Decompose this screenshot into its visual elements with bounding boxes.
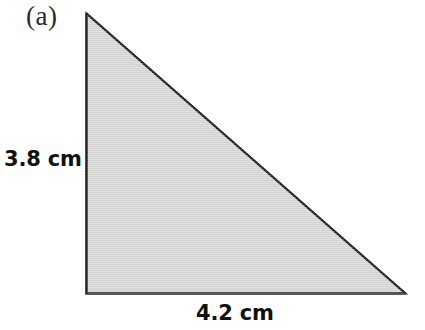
figure-root: (a) 3.8 cm 4.2 cm bbox=[0, 0, 425, 330]
height-dimension-label: 3.8 cm bbox=[4, 146, 82, 172]
part-label: (a) bbox=[26, 1, 57, 31]
base-dimension-label: 4.2 cm bbox=[196, 300, 274, 326]
